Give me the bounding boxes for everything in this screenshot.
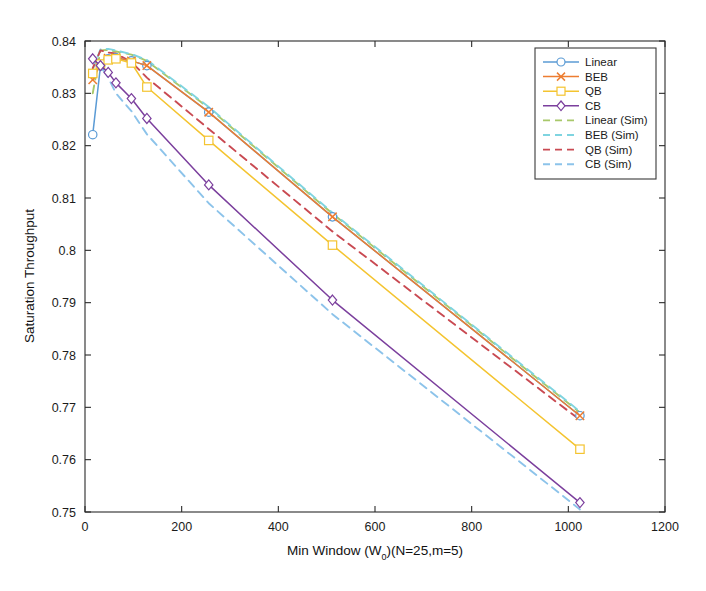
legend-item-label: Linear (Sim) — [585, 114, 648, 126]
y-tick-label: 0.78 — [52, 349, 76, 363]
data-point-marker-square — [143, 83, 151, 91]
data-point-marker-square — [557, 87, 565, 95]
x-tick-label: 600 — [365, 520, 386, 534]
y-tick-label: 0.83 — [52, 87, 76, 101]
legend-item-label: QB (Sim) — [585, 144, 632, 156]
data-point-marker-square — [112, 55, 120, 63]
x-tick-label: 1200 — [651, 520, 679, 534]
legend-item-label: CB (Sim) — [585, 158, 632, 170]
legend-item-label: Linear — [585, 56, 617, 68]
x-tick-label: 0 — [82, 520, 89, 534]
y-tick-label: 0.75 — [52, 506, 76, 520]
figure-panel: 020040060080010001200 0.750.760.770.780.… — [0, 0, 706, 591]
data-point-marker-square — [127, 59, 135, 67]
y-tick-label: 0.76 — [52, 453, 76, 467]
saturation-throughput-chart: 020040060080010001200 0.750.760.770.780.… — [0, 0, 706, 591]
legend-item-label: CB — [585, 100, 601, 112]
y-tick-label: 0.84 — [52, 35, 76, 49]
x-tick-label: 200 — [171, 520, 192, 534]
data-point-marker-square — [89, 69, 97, 77]
x-axis-title-main: Min Window (W — [287, 543, 382, 558]
x-tick-label: 800 — [461, 520, 482, 534]
legend[interactable]: LinearBEBQBCBLinear (Sim)BEB (Sim)QB (Si… — [535, 48, 656, 179]
y-tick-label: 0.81 — [52, 192, 76, 206]
x-tick-label: 1000 — [554, 520, 582, 534]
x-tick-label: 400 — [268, 520, 289, 534]
data-point-marker-square — [328, 241, 336, 249]
legend-item-label: BEB — [585, 71, 608, 83]
y-tick-label: 0.79 — [52, 296, 76, 310]
x-axis-title-tail: )(N=25,m=5) — [387, 543, 464, 558]
data-point-marker-square — [576, 445, 584, 453]
y-tick-label: 0.8 — [59, 244, 76, 258]
data-point-marker-circle — [557, 58, 565, 66]
y-axis-title: Saturation Throughput — [22, 209, 37, 343]
data-point-marker-square — [205, 136, 213, 144]
y-tick-label: 0.82 — [52, 139, 76, 153]
legend-item-label: BEB (Sim) — [585, 129, 639, 141]
y-tick-label: 0.77 — [52, 401, 76, 415]
data-point-marker-circle — [89, 130, 97, 138]
legend-item-label: QB — [585, 85, 602, 97]
